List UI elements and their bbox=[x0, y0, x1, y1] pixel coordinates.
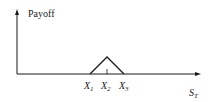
x-axis-label: ST bbox=[189, 87, 199, 100]
x-axis-arrow-icon bbox=[195, 72, 201, 76]
y-axis-label: Payoff bbox=[28, 8, 55, 19]
tick-label-x2: X2 bbox=[100, 80, 111, 93]
payoff-chart: Payoff X1 X2 X3 ST bbox=[0, 0, 210, 102]
tick-label-x1: X1 bbox=[83, 80, 94, 93]
y-axis-arrow-icon bbox=[15, 9, 19, 15]
tick-label-x3: X3 bbox=[118, 80, 129, 93]
